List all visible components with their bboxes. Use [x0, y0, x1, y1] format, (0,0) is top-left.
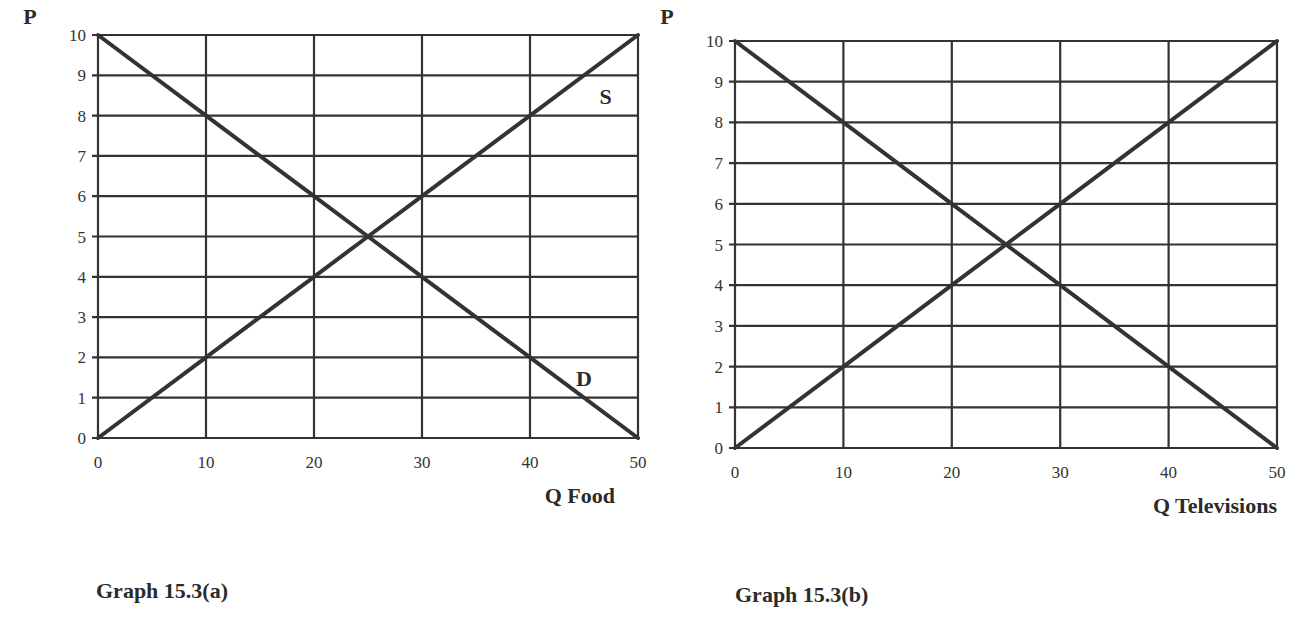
caption-graph-b: Graph 15.3(b): [735, 582, 868, 608]
y-tick-label: 7: [715, 154, 724, 173]
x-tick-label: 10: [835, 463, 852, 482]
chart-b: 01234567891001020304050PQ Televisions: [660, 4, 1285, 518]
x-tick-label: 50: [1269, 463, 1286, 482]
y-tick-label: 3: [715, 317, 724, 336]
y-tick-label: 3: [78, 308, 87, 327]
x-tick-label: 40: [522, 453, 539, 472]
y-tick-label: 1: [715, 398, 724, 417]
x-tick-label: 10: [198, 453, 215, 472]
y-tick-label: 6: [78, 187, 87, 206]
y-tick-label: 10: [69, 26, 86, 45]
x-tick-label: 50: [630, 453, 647, 472]
y-tick-label: 7: [78, 147, 87, 166]
y-tick-label: 2: [715, 358, 724, 377]
y-tick-label: 0: [78, 429, 87, 448]
x-tick-label: 20: [306, 453, 323, 472]
caption-graph-a: Graph 15.3(a): [96, 578, 228, 604]
y-tick-label: 1: [78, 389, 87, 408]
y-tick-label: 5: [715, 236, 724, 255]
y-tick-label: 9: [715, 73, 724, 92]
y-axis-label: P: [660, 4, 673, 29]
curve-label-d: D: [576, 366, 592, 391]
y-tick-label: 9: [78, 66, 87, 85]
x-tick-label: 0: [731, 463, 740, 482]
x-axis-label: Q Food: [545, 483, 615, 508]
y-tick-label: 4: [715, 276, 724, 295]
y-tick-label: 0: [715, 439, 724, 458]
chart-a: 01234567891001020304050SDPQ Food: [23, 4, 646, 508]
x-tick-label: 30: [414, 453, 431, 472]
x-axis-label: Q Televisions: [1153, 493, 1278, 518]
x-tick-label: 0: [94, 453, 103, 472]
x-tick-label: 20: [943, 463, 960, 482]
y-tick-label: 4: [78, 268, 87, 287]
curve-label-s: S: [599, 84, 611, 109]
y-tick-label: 8: [78, 107, 87, 126]
y-tick-label: 8: [715, 113, 724, 132]
y-tick-label: 10: [706, 32, 723, 51]
y-tick-label: 5: [78, 228, 87, 247]
x-tick-label: 30: [1052, 463, 1069, 482]
y-tick-label: 6: [715, 195, 724, 214]
y-tick-label: 2: [78, 348, 87, 367]
charts-canvas: 01234567891001020304050SDPQ Food01234567…: [0, 0, 1316, 621]
x-tick-label: 40: [1160, 463, 1177, 482]
y-axis-label: P: [23, 4, 36, 29]
